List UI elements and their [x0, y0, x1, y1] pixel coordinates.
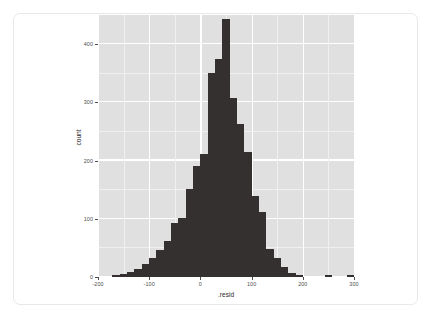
histogram-bar — [127, 272, 134, 277]
x-axis-label: .resid — [98, 291, 354, 298]
histogram-bar — [186, 189, 194, 277]
histogram-bar — [325, 275, 332, 277]
y-tick-label: 300 — [68, 99, 93, 105]
histogram-bar — [266, 249, 273, 277]
histogram-bar — [259, 212, 267, 277]
y-tick-label: 100 — [68, 216, 93, 222]
histogram-bar — [252, 196, 259, 278]
plot-panel — [98, 15, 354, 277]
histogram-bar — [237, 124, 244, 277]
histogram-bar — [215, 59, 222, 277]
y-tick-label: 0 — [68, 274, 93, 280]
histogram-bar — [193, 166, 200, 277]
histogram-bar — [281, 267, 289, 277]
histogram-bar — [120, 274, 127, 277]
x-tick-label: 0 — [185, 281, 215, 287]
histogram-bar — [142, 264, 149, 277]
figure-card: 0100200300400 -200-1000100200300 .resid … — [13, 13, 418, 305]
x-tick-label: 200 — [288, 281, 318, 287]
x-tick-mark — [354, 277, 355, 280]
y-tick-label: 200 — [68, 158, 93, 164]
histogram-bar — [296, 275, 303, 277]
y-tick-label: 400 — [68, 41, 93, 47]
histogram-bar — [230, 98, 238, 277]
x-tick-label: -200 — [83, 281, 113, 287]
x-tick-mark — [98, 277, 99, 280]
histogram-bars — [98, 15, 354, 277]
x-tick-mark — [200, 277, 201, 280]
histogram-bar — [178, 218, 185, 277]
histogram-bar — [288, 273, 295, 277]
y-tick-mark — [95, 219, 98, 220]
histogram-bar — [222, 19, 229, 277]
x-tick-label: 300 — [339, 281, 369, 287]
screenshot-root: 0100200300400 -200-1000100200300 .resid … — [0, 0, 432, 319]
histogram-bar — [112, 275, 120, 277]
y-tick-mark — [95, 44, 98, 45]
y-tick-mark — [95, 161, 98, 162]
x-tick-label: 100 — [237, 281, 267, 287]
histogram-bar — [347, 275, 354, 277]
x-tick-label: -100 — [134, 281, 164, 287]
x-tick-mark — [252, 277, 253, 280]
histogram-bar — [164, 241, 172, 277]
histogram-bar — [134, 269, 142, 277]
y-axis-label: count — [75, 118, 82, 158]
x-tick-mark — [149, 277, 150, 280]
y-tick-mark — [95, 102, 98, 103]
histogram-bar — [274, 258, 281, 277]
x-tick-mark — [303, 277, 304, 280]
histogram-bar — [149, 258, 156, 277]
histogram-bar — [200, 154, 207, 277]
histogram-bar — [244, 152, 251, 277]
histogram-bar — [171, 223, 178, 277]
histogram-bar — [156, 250, 163, 277]
histogram-bar — [208, 73, 216, 277]
plot-area: 0100200300400 -200-1000100200300 .resid … — [14, 14, 419, 306]
